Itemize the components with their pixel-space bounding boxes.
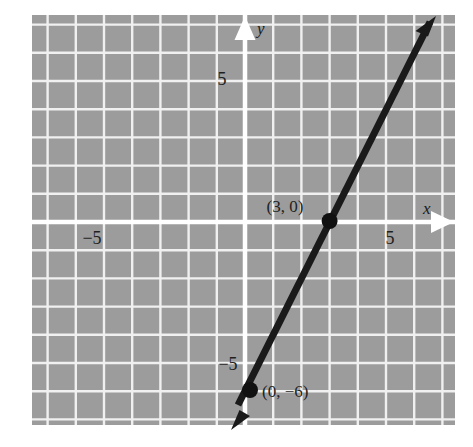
y-tick-negative-5: −5 bbox=[218, 354, 237, 374]
point-marker-0-neg6 bbox=[242, 382, 258, 398]
graph-figure: y x 5 −5 −5 5 (3, 0) (0, −6) bbox=[0, 0, 473, 447]
coordinate-plane-svg: y x 5 −5 −5 5 (3, 0) (0, −6) bbox=[0, 0, 473, 447]
x-axis-label: x bbox=[422, 199, 431, 218]
point-label-0-neg6: (0, −6) bbox=[262, 382, 308, 401]
y-tick-positive-5: 5 bbox=[218, 69, 227, 89]
y-axis-label: y bbox=[255, 19, 265, 38]
x-tick-negative-5: −5 bbox=[82, 228, 101, 248]
point-marker-3-0 bbox=[322, 213, 338, 229]
x-tick-positive-5: 5 bbox=[386, 228, 395, 248]
point-label-3-0: (3, 0) bbox=[267, 197, 304, 216]
